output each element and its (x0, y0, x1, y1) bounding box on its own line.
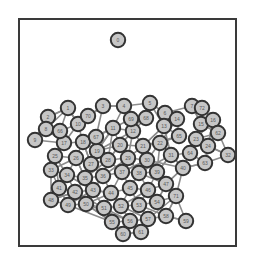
graph-node[interactable]: 43 (86, 183, 100, 197)
graph-node[interactable]: 50 (79, 197, 93, 211)
graph-node[interactable]: 60 (116, 227, 130, 241)
graph-node[interactable]: 52 (114, 199, 128, 213)
node-circle[interactable] (61, 198, 75, 212)
graph-node[interactable]: 65 (172, 129, 186, 143)
graph-node[interactable]: 62 (211, 126, 225, 140)
node-circle[interactable] (124, 112, 138, 126)
node-circle[interactable] (81, 109, 95, 123)
graph-node[interactable]: 36 (96, 169, 110, 183)
node-circle[interactable] (96, 169, 110, 183)
graph-node[interactable]: 22 (153, 136, 167, 150)
node-circle[interactable] (115, 165, 129, 179)
node-circle[interactable] (139, 111, 153, 125)
graph-node[interactable]: 0 (111, 33, 125, 47)
node-circle[interactable] (113, 138, 127, 152)
graph-node[interactable]: 29 (121, 151, 135, 165)
node-circle[interactable] (105, 215, 119, 229)
node-circle[interactable] (114, 199, 128, 213)
node-circle[interactable] (195, 101, 209, 115)
node-circle[interactable] (97, 201, 111, 215)
graph-node[interactable]: 30 (140, 153, 154, 167)
graph-node[interactable]: 38 (132, 166, 146, 180)
graph-node[interactable]: 49 (61, 198, 75, 212)
node-circle[interactable] (111, 33, 125, 47)
node-circle[interactable] (176, 161, 190, 175)
graph-node[interactable]: 63 (198, 156, 212, 170)
graph-node[interactable]: 68 (139, 111, 153, 125)
node-circle[interactable] (60, 168, 74, 182)
node-circle[interactable] (164, 148, 178, 162)
graph-node[interactable]: 53 (132, 198, 146, 212)
graph-node[interactable]: 61 (134, 225, 148, 239)
node-circle[interactable] (123, 181, 137, 195)
graph-node[interactable]: 14 (170, 112, 184, 126)
node-circle[interactable] (39, 122, 53, 136)
graph-node[interactable]: 71 (169, 189, 183, 203)
graph-node[interactable]: 40 (176, 161, 190, 175)
node-circle[interactable] (221, 148, 235, 162)
node-circle[interactable] (106, 121, 120, 135)
graph-node[interactable]: 67 (89, 130, 103, 144)
node-circle[interactable] (159, 209, 173, 223)
node-circle[interactable] (61, 101, 75, 115)
graph-node[interactable]: 3 (96, 99, 110, 113)
node-circle[interactable] (79, 197, 93, 211)
node-circle[interactable] (101, 153, 115, 167)
graph-node[interactable]: 21 (136, 139, 150, 153)
graph-node[interactable]: 66 (53, 124, 67, 138)
node-circle[interactable] (48, 149, 62, 163)
graph-node[interactable]: 20 (113, 138, 127, 152)
node-circle[interactable] (140, 153, 154, 167)
node-circle[interactable] (121, 151, 135, 165)
graph-node[interactable]: 27 (84, 157, 98, 171)
node-circle[interactable] (116, 227, 130, 241)
graph-node[interactable]: 28 (101, 153, 115, 167)
graph-node[interactable]: 45 (123, 181, 137, 195)
node-circle[interactable] (198, 156, 212, 170)
graph-node[interactable]: 31 (164, 148, 178, 162)
graph-node[interactable]: 34 (60, 168, 74, 182)
node-circle[interactable] (150, 195, 164, 209)
node-circle[interactable] (104, 186, 118, 200)
graph-node[interactable]: 72 (195, 101, 209, 115)
graph-node[interactable]: 11 (106, 121, 120, 135)
node-circle[interactable] (84, 157, 98, 171)
graph-node[interactable]: 44 (104, 186, 118, 200)
node-circle[interactable] (169, 189, 183, 203)
graph-node[interactable]: 26 (69, 151, 83, 165)
node-circle[interactable] (134, 225, 148, 239)
graph-node[interactable]: 70 (81, 109, 95, 123)
node-circle[interactable] (44, 193, 58, 207)
graph-node[interactable]: 32 (221, 148, 235, 162)
node-circle[interactable] (132, 198, 146, 212)
node-circle[interactable] (201, 139, 215, 153)
node-circle[interactable] (86, 183, 100, 197)
node-circle[interactable] (179, 214, 193, 228)
node-circle[interactable] (53, 124, 67, 138)
graph-node[interactable]: 54 (150, 195, 164, 209)
graph-node[interactable]: 9 (28, 133, 42, 147)
node-circle[interactable] (153, 136, 167, 150)
graph-node[interactable]: 8 (39, 122, 53, 136)
node-circle[interactable] (170, 112, 184, 126)
graph-node[interactable]: 58 (159, 209, 173, 223)
node-circle[interactable] (159, 177, 173, 191)
node-circle[interactable] (211, 126, 225, 140)
node-circle[interactable] (69, 151, 83, 165)
graph-node[interactable]: 33 (44, 163, 58, 177)
node-circle[interactable] (44, 163, 58, 177)
graph-node[interactable]: 5 (143, 96, 157, 110)
graph-node[interactable]: 59 (179, 214, 193, 228)
graph-node[interactable]: 64 (183, 146, 197, 160)
node-circle[interactable] (89, 130, 103, 144)
node-circle[interactable] (172, 129, 186, 143)
graph-node[interactable]: 24 (201, 139, 215, 153)
graph-node[interactable]: 48 (44, 193, 58, 207)
node-circle[interactable] (183, 146, 197, 160)
graph-node[interactable]: 47 (159, 177, 173, 191)
node-circle[interactable] (143, 96, 157, 110)
graph-node[interactable]: 25 (48, 149, 62, 163)
graph-node[interactable]: 69 (124, 112, 138, 126)
node-circle[interactable] (136, 139, 150, 153)
graph-node[interactable]: 55 (105, 215, 119, 229)
